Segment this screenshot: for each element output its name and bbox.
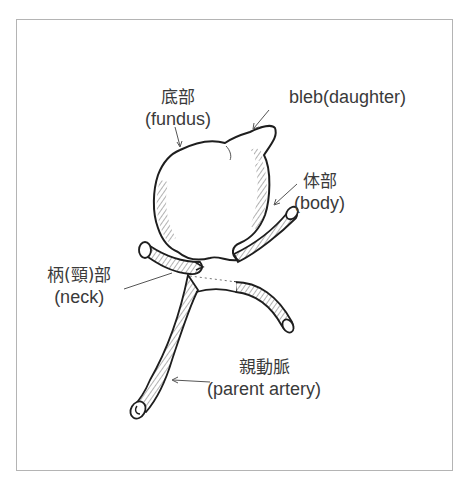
label-fundus-en: (fundus) [145, 108, 211, 130]
aneurysm-illustration [0, 0, 460, 498]
label-neck-en: (neck) [47, 286, 111, 308]
label-parent-artery-en: (parent artery) [207, 378, 321, 400]
label-parent-artery: 親動脈 (parent artery) [207, 356, 321, 400]
parent-artery-vessel [127, 275, 198, 421]
label-body-jp: 体部 [294, 170, 345, 192]
label-bleb-en: bleb(daughter) [289, 86, 406, 108]
label-body: 体部 (body) [294, 170, 345, 214]
label-neck-jp: 柄(頸)部 [47, 264, 111, 286]
label-fundus: 底部 (fundus) [145, 86, 211, 130]
label-bleb: bleb(daughter) [289, 86, 406, 108]
label-neck: 柄(頸)部 (neck) [47, 264, 111, 308]
label-body-en: (body) [294, 192, 345, 214]
label-parent-artery-jp: 親動脈 [207, 356, 321, 378]
label-fundus-jp: 底部 [145, 86, 211, 108]
right-lower-branch [235, 282, 296, 335]
